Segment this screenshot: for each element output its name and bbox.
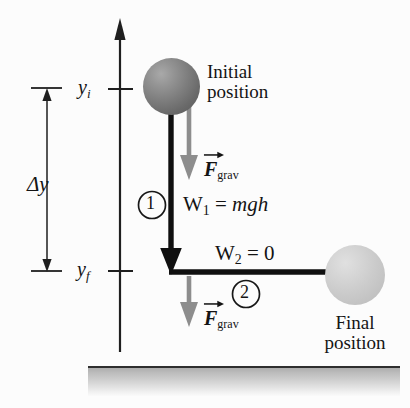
f-grav-lower-label: F grav (204, 308, 239, 331)
final-position-ball (325, 245, 385, 305)
f-grav-lower-vector-symbol: F (204, 308, 217, 329)
initial-position-label-line2: position (207, 82, 268, 102)
delta-y-label: Δy (27, 173, 49, 195)
segment-2-work-equation: W2 = 0 (215, 242, 275, 267)
f-grav-lower-arrow (180, 276, 198, 327)
axis-label-y-final: yf (77, 259, 90, 283)
final-position-label-line2: position (299, 333, 410, 353)
initial-position-label: Initial position (207, 62, 268, 102)
initial-position-label-line1: Initial (207, 62, 268, 82)
final-position-label-line1: Final (299, 313, 410, 333)
segment-1-step-number: 1 (146, 194, 155, 213)
vertical-position-axis (114, 18, 125, 352)
physics-diagram-work-by-gravity: yi yf Δy Initial position Final position… (0, 0, 410, 408)
axis-label-y-initial: yi (78, 77, 91, 101)
f-grav-upper-vector-symbol: F (204, 159, 217, 180)
segment-2-step-number: 2 (240, 283, 249, 302)
final-position-label: Final position (299, 313, 410, 353)
segment-1-work-equation: W1 = mgh (183, 193, 268, 218)
f-grav-upper-label: F grav (204, 159, 239, 182)
overarrow-icon (203, 149, 224, 159)
overarrow-icon (203, 298, 224, 308)
ground-surface (88, 366, 400, 396)
initial-position-ball (143, 58, 200, 115)
